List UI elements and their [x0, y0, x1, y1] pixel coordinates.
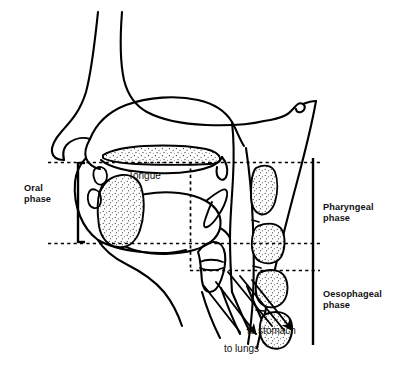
genioglossus-outline	[98, 175, 144, 247]
nasopharynx-wall	[264, 108, 294, 121]
diagram-canvas: Oral phase Pharyngeal phase Oesophageal …	[0, 0, 401, 373]
pharynx-posterior-wall	[230, 122, 234, 292]
to-lungs-label: to lungs	[224, 343, 259, 355]
upper-lip-outline	[85, 139, 100, 169]
cervical-vertebra-1	[251, 166, 277, 215]
vocal-folds-outline	[200, 260, 223, 262]
oesophageal-phase-label: Oesophageal phase	[323, 289, 395, 311]
tongue-label: Tongue	[128, 170, 161, 182]
pharyngeal-phase-label: Pharyngeal phase	[323, 202, 393, 224]
skull-base-right	[303, 101, 316, 104]
trachea-anterior-wall	[202, 292, 220, 338]
vallecula-outline	[220, 228, 230, 238]
to-stomach-label: to stomach	[247, 325, 296, 337]
nasal-cavity-roof	[90, 97, 244, 146]
oral-phase-label: Oral phase	[24, 183, 72, 205]
nose-outline	[121, 12, 264, 125]
larynx-outline	[198, 242, 225, 292]
